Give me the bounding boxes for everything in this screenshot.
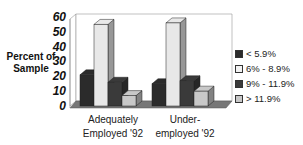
legend-label: 6% - 8.9% xyxy=(246,63,290,74)
legend-item: 6% - 8.9% xyxy=(235,61,294,76)
x-label-line: employed '92 xyxy=(150,127,220,141)
legend-item: < 5.9% xyxy=(235,46,294,61)
legend-item: 9% - 11.9% xyxy=(235,76,294,91)
x-label-line: Adequately xyxy=(78,113,148,127)
legend-label: 9% - 11.9% xyxy=(246,78,294,89)
x-category-label: Under- employed '92 xyxy=(150,113,220,141)
x-label-line: Employed '92 xyxy=(78,127,148,141)
x-label-line: Under- xyxy=(150,113,220,127)
bar xyxy=(152,84,166,106)
legend-swatch xyxy=(235,65,243,73)
chart: Percent of Sample 60 50 40 30 20 10 0 Ad… xyxy=(0,0,303,145)
bar xyxy=(108,82,122,106)
legend-swatch xyxy=(235,95,243,103)
bar xyxy=(94,24,108,106)
legend-swatch xyxy=(235,50,243,58)
legend-swatch xyxy=(235,80,243,88)
bar xyxy=(122,96,136,106)
bar xyxy=(80,75,94,106)
bar xyxy=(166,23,180,106)
legend-item: > 11.9% xyxy=(235,91,294,106)
bar xyxy=(194,91,208,106)
bar xyxy=(180,81,194,106)
legend: < 5.9% 6% - 8.9% 9% - 11.9% > 11.9% xyxy=(235,46,294,106)
legend-label: > 11.9% xyxy=(246,93,280,104)
x-category-label: Adequately Employed '92 xyxy=(78,113,148,141)
legend-label: < 5.9% xyxy=(246,48,276,59)
